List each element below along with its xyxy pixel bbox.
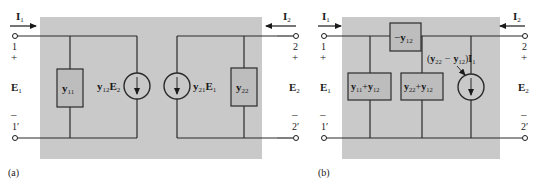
minus-sign: – (291, 108, 298, 120)
terminal-2-icon (523, 34, 528, 39)
terminal-2prime-icon (294, 136, 299, 141)
caption-b: (b) (318, 167, 330, 179)
terminal-1prime-label: 1′ (12, 121, 19, 132)
plus-sign: + (521, 51, 527, 63)
minus-sign: – (520, 108, 527, 120)
minus-sign: – (319, 108, 326, 120)
plus-sign: + (320, 51, 326, 63)
current-i2-label: I2 (513, 10, 521, 24)
plus-sign: + (292, 51, 298, 63)
two-port-network-figure: y11 y12E2 y21E1 y22 I1 1 + E1 – 1′ I2 2 … (0, 0, 544, 193)
current-i1-label: I1 (322, 10, 330, 24)
voltage-e1-label: E1 (320, 81, 331, 95)
current-i2-label: I2 (283, 10, 291, 24)
figure-a: y11 y12E2 y21E1 y22 I1 1 + E1 – 1′ I2 2 … (8, 10, 300, 179)
terminal-2prime-label: 2′ (292, 121, 299, 132)
terminal-2-icon (294, 34, 299, 39)
voltage-e2-label: E2 (518, 81, 529, 95)
caption-a: (a) (8, 167, 19, 179)
terminal-1-icon (13, 34, 18, 39)
figure-b: −y12 y11+y12 y22+y12 (y22−y12)I1 I1 1 + … (318, 10, 529, 179)
terminal-1prime-label: 1′ (321, 121, 328, 132)
terminal-2prime-icon (523, 136, 528, 141)
terminal-1-icon (322, 34, 327, 39)
voltage-e1-label: E1 (11, 81, 22, 95)
plus-sign: + (11, 51, 17, 63)
terminal-1prime-icon (322, 136, 327, 141)
current-i1-label: I1 (16, 10, 24, 24)
minus-sign: – (10, 108, 17, 120)
terminal-2prime-label: 2′ (521, 121, 528, 132)
voltage-e2-label: E2 (289, 81, 300, 95)
terminal-1prime-icon (13, 136, 18, 141)
